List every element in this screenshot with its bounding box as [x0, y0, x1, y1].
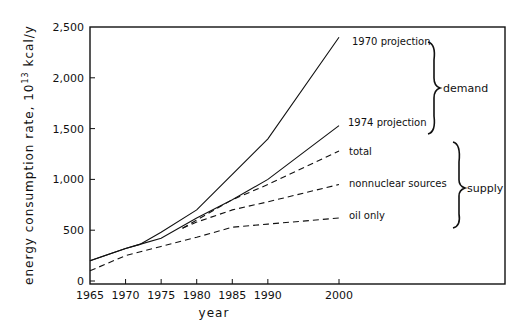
y-axis-title-sup: 13	[21, 71, 30, 83]
series-line-total	[183, 151, 340, 228]
series-label-1974-projection: 1974 projection	[348, 117, 427, 128]
x-tick-label: 1990	[254, 289, 282, 302]
x-tick-label: 1975	[147, 289, 175, 302]
y-axis: 05001,0001,5002,0002,500	[53, 21, 96, 288]
y-axis-title-main: energy consumption rate, 10	[22, 83, 36, 284]
x-tick-label: 1985	[218, 289, 246, 302]
series-labels: 1970 projection1974 projectiontotalnonnu…	[348, 36, 447, 221]
series-line-nonnuclear-sources	[183, 185, 340, 229]
demand-group-label: demand	[443, 82, 488, 95]
y-tick-label: 500	[63, 224, 84, 237]
x-axis: 1965197019751980198519902000	[76, 279, 353, 302]
x-tick-label: 2000	[325, 289, 353, 302]
series-line-oil-only	[90, 218, 339, 271]
supply-brace-icon	[453, 142, 465, 228]
x-axis-title: year	[199, 306, 230, 320]
series-lines	[90, 37, 339, 271]
series-line-1970-projection	[90, 37, 339, 261]
x-tick-label: 1980	[183, 289, 211, 302]
series-label-1970-projection: 1970 projection	[352, 36, 431, 47]
y-tick-label: 1,000	[53, 173, 85, 186]
series-label-total: total	[349, 146, 372, 157]
y-axis-title: energy consumption rate, 1013 kcal/y	[21, 25, 36, 285]
x-tick-label: 1970	[112, 289, 140, 302]
energy-consumption-chart: 05001,0001,5002,0002,500 196519701975198…	[0, 0, 526, 333]
plot-frame	[90, 27, 505, 284]
y-tick-label: 2,500	[53, 21, 85, 34]
y-tick-label: 1,500	[53, 123, 85, 136]
y-tick-label: 2,000	[53, 72, 85, 85]
y-tick-label: 0	[77, 275, 84, 288]
x-tick-label: 1965	[76, 289, 104, 302]
series-label-oil-only: oil only	[349, 210, 385, 221]
supply-group-label: supply	[467, 182, 504, 195]
y-axis-title-unit: kcal/y	[22, 25, 36, 71]
demand-brace-icon	[428, 42, 440, 134]
series-label-nonnuclear-sources: nonnuclear sources	[349, 178, 447, 189]
